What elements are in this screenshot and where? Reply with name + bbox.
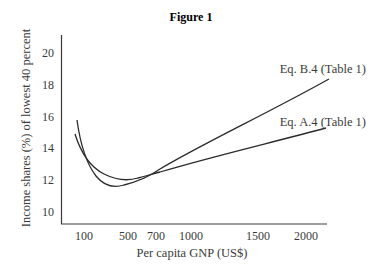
x-tick-label: 500 xyxy=(119,229,137,243)
series-line-eq-b4 xyxy=(77,79,329,186)
chart-figure: Figure 1 101214161820 100500700100015002… xyxy=(0,0,382,273)
legend-label-eq-a4: Eq. A.4 (Table 1) xyxy=(280,115,366,129)
y-tick-label: 20 xyxy=(42,46,54,60)
y-tick-label: 12 xyxy=(42,173,54,187)
y-tick-label: 18 xyxy=(42,78,54,92)
x-tick-label: 2000 xyxy=(294,229,318,243)
y-tick-label: 10 xyxy=(42,205,54,219)
x-tick-label: 100 xyxy=(75,229,93,243)
y-tick-labels: 101214161820 xyxy=(42,46,54,219)
y-tick-label: 16 xyxy=(42,110,54,124)
x-axis-title: Per capita GNP (US$) xyxy=(137,246,248,260)
x-tick-labels: 100500700100015002000 xyxy=(75,229,318,243)
x-tick-label: 1500 xyxy=(246,229,270,243)
x-tick-label: 700 xyxy=(147,229,165,243)
legend-label-eq-b4: Eq. B.4 (Table 1) xyxy=(280,62,366,76)
y-axis-title: Income shares (%) of lowest 40 percent xyxy=(19,28,33,227)
x-tick-label: 1000 xyxy=(179,229,203,243)
series-line-eq-a4 xyxy=(75,128,326,180)
y-tick-label: 14 xyxy=(42,141,54,155)
chart-title: Figure 1 xyxy=(170,10,213,24)
